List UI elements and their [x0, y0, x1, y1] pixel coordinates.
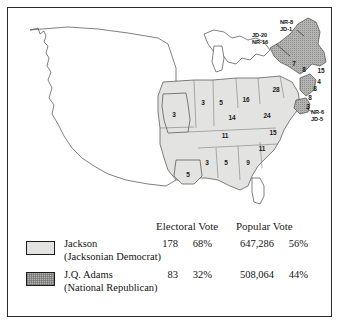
state-value-vermont: 7: [292, 61, 296, 68]
western-territories: [30, 27, 176, 186]
state-value-tennessee: 11: [222, 133, 229, 140]
state-value-connecticut: 8: [313, 86, 317, 93]
legend-swatch-adams: [26, 272, 55, 286]
legend-swatch-jackson: [26, 241, 55, 255]
electoral-votes-jackson: 178: [156, 238, 178, 249]
state-value-missouri: 3: [172, 112, 176, 119]
state-value-mississippi: 3: [205, 160, 209, 167]
state-value-georgia: 9: [246, 160, 250, 167]
legend-party-jackson: (Jacksonian Democrat): [64, 251, 161, 262]
split-callout-maine: NR-8 JD-1: [280, 19, 293, 32]
column-header-popular-vote: Popular Vote: [236, 220, 293, 232]
split-callout-new-york: JD-20 NR-16: [252, 32, 268, 45]
state-value-virginia: 24: [263, 113, 270, 120]
split-callout-maryland: NR-6 JD-5: [311, 109, 324, 122]
split-callout-maryland-line2: JD-5: [311, 116, 324, 123]
state-value-pennsylvania: 28: [272, 87, 279, 94]
state-value-delaware: 3: [306, 104, 310, 111]
results-legend: Electoral Vote Popular Vote Jackson (Jac…: [8, 214, 331, 316]
popular-pct-jackson: 56%: [282, 238, 308, 249]
state-value-indiana: 5: [219, 100, 223, 107]
map-outline-svg: [8, 8, 331, 216]
state-value-ohio: 16: [242, 97, 249, 104]
split-callout-maryland-line1: NR-6: [311, 109, 324, 116]
state-value-alabama: 5: [224, 160, 228, 167]
electoral-votes-adams: 83: [156, 269, 178, 280]
map-figure-frame: 3 3 5 16 28 14 24 11 15 11 3 5 9 5 7 8 1…: [7, 7, 332, 317]
state-value-new-jersey: 8: [308, 95, 312, 102]
legend-candidate-jackson: Jackson: [64, 238, 97, 249]
electoral-pct-jackson: 68%: [186, 238, 212, 249]
split-callout-new-york-line1: JD-20: [252, 32, 268, 39]
popular-pct-adams: 44%: [282, 269, 308, 280]
lake-michigan: [212, 46, 224, 72]
state-value-rhode-island: 4: [317, 79, 321, 86]
split-callout-maine-line1: NR-8: [280, 19, 293, 26]
state-value-massachusetts: 15: [317, 68, 324, 75]
state-value-south-carolina: 11: [259, 146, 266, 153]
electoral-pct-adams: 32%: [186, 269, 212, 280]
legend-candidate-adams: J.Q. Adams: [64, 269, 113, 280]
us-electoral-map: 3 3 5 16 28 14 24 11 15 11 3 5 9 5 7 8 1…: [8, 8, 331, 216]
state-value-illinois: 3: [201, 100, 205, 107]
florida-territory: [252, 178, 264, 204]
column-header-electoral-vote: Electoral Vote: [156, 220, 218, 232]
legend-party-adams: (National Republican): [64, 282, 158, 293]
popular-votes-adams: 508,064: [230, 269, 274, 280]
state-value-new-hampshire: 8: [302, 67, 306, 74]
split-callout-new-york-line2: NR-16: [252, 39, 268, 46]
state-value-north-carolina: 15: [269, 130, 276, 137]
state-value-louisiana: 5: [186, 172, 190, 179]
split-callout-maine-line2: JD-1: [280, 26, 293, 33]
popular-votes-jackson: 647,286: [230, 238, 274, 249]
state-value-kentucky: 14: [228, 115, 235, 122]
